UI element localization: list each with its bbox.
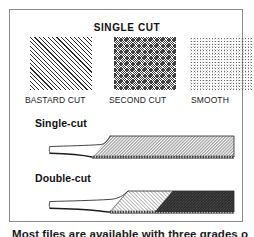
- tang-tip-double: [49, 202, 50, 209]
- row-heading-double-cut: Double-cut: [35, 172, 91, 184]
- hatch-pattern-fine-crosshatch: [114, 37, 176, 90]
- tang-lower-contour-single: [50, 153, 92, 157]
- blade-teeth-single: [92, 156, 234, 159]
- tang-lower-contour-double: [50, 208, 110, 212]
- figure-title: SINGLE CUT: [10, 22, 244, 33]
- swatch-label-second-cut: SECOND CUT: [109, 95, 166, 105]
- tang-upper-contour-single: [50, 136, 110, 147]
- file-cut-grades-figure: SINGLE CUT BASTARD CUT SECOND CUT SMOOTH…: [0, 0, 254, 237]
- swatch-second-cut: [114, 37, 176, 90]
- blade-teeth-double: [110, 211, 234, 214]
- hatch-pattern-coarse-diagonal: [30, 37, 92, 90]
- file-illustration-single-cut: [48, 130, 234, 170]
- blade-body-single: [92, 136, 234, 157]
- swatch-bastard-cut: [30, 37, 92, 90]
- file-illustration-double-cut: [48, 185, 234, 225]
- tang-upper-contour-double: [50, 191, 128, 202]
- row-heading-single-cut: Single-cut: [35, 117, 87, 129]
- swatch-label-bastard-cut: BASTARD CUT: [25, 95, 85, 105]
- figure-caption: Most files are available with three grad…: [12, 228, 248, 237]
- hatch-pattern-light-stipple: [190, 37, 252, 90]
- swatch-label-smooth: SMOOTH: [191, 95, 229, 105]
- tang-tip-single: [49, 147, 50, 154]
- swatch-smooth: [190, 37, 252, 90]
- figure-frame: SINGLE CUT BASTARD CUT SECOND CUT SMOOTH…: [9, 9, 243, 222]
